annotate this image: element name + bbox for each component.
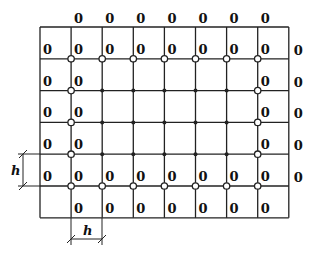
boundary-zero-top: 0 (167, 11, 176, 26)
node-zero-label: 0 (261, 169, 270, 184)
node-zero-label: 0 (167, 169, 176, 184)
boundary-zero-right: 0 (294, 43, 303, 58)
boundary-adjacent-node (255, 151, 261, 157)
interior-node (194, 152, 198, 156)
node-zero-label: 0 (105, 42, 114, 57)
zero-labels: 0000000000000000000000000000000000000000… (43, 11, 303, 216)
boundary-adjacent-node (130, 183, 136, 189)
boundary-adjacent-node (68, 119, 74, 125)
boundary-zero-left: 0 (43, 42, 52, 57)
boundary-adjacent-node (192, 183, 198, 189)
boundary-zero-left: 0 (43, 137, 52, 152)
node-zero-label: 0 (136, 169, 145, 184)
interior-node (162, 152, 166, 156)
boundary-zero-left: 0 (43, 105, 52, 120)
boundary-zero-right: 0 (294, 138, 303, 153)
node-zero-label: 0 (74, 105, 83, 120)
boundary-zero-right: 0 (294, 75, 303, 90)
boundary-adjacent-node (68, 151, 74, 157)
interior-node (100, 152, 104, 156)
interior-node (131, 120, 135, 124)
interior-node (100, 89, 104, 93)
boundary-zero-bottom: 0 (136, 201, 145, 216)
node-zero-label: 0 (261, 74, 270, 89)
boundary-adjacent-node (99, 56, 105, 62)
boundary-adjacent-node (130, 56, 136, 62)
boundary-adjacent-node (255, 183, 261, 189)
boundary-zero-bottom: 0 (167, 201, 176, 216)
boundary-adjacent-node (255, 87, 261, 93)
interior-node (162, 120, 166, 124)
interior-node (131, 152, 135, 156)
node-zero-label: 0 (261, 105, 270, 120)
boundary-zero-right: 0 (294, 170, 303, 185)
boundary-zero-top: 0 (230, 11, 239, 26)
interior-node (131, 89, 135, 93)
boundary-adjacent-node (99, 183, 105, 189)
node-zero-label: 0 (74, 74, 83, 89)
boundary-zero-left: 0 (43, 169, 52, 184)
dimension-markers: h h (11, 150, 106, 245)
boundary-adjacent-node (223, 56, 229, 62)
boundary-adjacent-node (223, 183, 229, 189)
boundary-zero-top: 0 (74, 11, 83, 26)
boundary-adjacent-node (161, 56, 167, 62)
boundary-zero-bottom: 0 (261, 201, 270, 216)
boundary-zero-top: 0 (136, 11, 145, 26)
node-zero-label: 0 (261, 137, 270, 152)
boundary-zero-bottom: 0 (105, 201, 114, 216)
interior-node (162, 89, 166, 93)
node-zero-label: 0 (230, 42, 239, 57)
boundary-adjacent-node (68, 56, 74, 62)
node-zero-label: 0 (230, 169, 239, 184)
boundary-zero-top: 0 (261, 11, 270, 26)
dim-horizontal-label: h (83, 223, 92, 238)
interior-node (225, 152, 229, 156)
node-zero-label: 0 (105, 169, 114, 184)
boundary-adjacent-node (68, 87, 74, 93)
boundary-adjacent-node (161, 183, 167, 189)
interior-node (100, 120, 104, 124)
node-zero-label: 0 (74, 169, 83, 184)
interior-node (194, 89, 198, 93)
node-zero-label: 0 (74, 42, 83, 57)
boundary-zero-bottom: 0 (74, 201, 83, 216)
interior-node (194, 120, 198, 124)
boundary-adjacent-node (68, 183, 74, 189)
boundary-adjacent-node (192, 56, 198, 62)
node-zero-label: 0 (199, 169, 208, 184)
boundary-adjacent-node (255, 56, 261, 62)
boundary-zero-top: 0 (199, 11, 208, 26)
dim-vertical-label: h (11, 163, 20, 178)
boundary-zero-bottom: 0 (230, 201, 239, 216)
boundary-zero-top: 0 (105, 11, 114, 26)
node-zero-label: 0 (74, 137, 83, 152)
boundary-zero-bottom: 0 (199, 201, 208, 216)
node-zero-label: 0 (167, 42, 176, 57)
boundary-adjacent-node (255, 119, 261, 125)
node-zero-label: 0 (199, 42, 208, 57)
boundary-zero-right: 0 (294, 106, 303, 121)
interior-node (225, 120, 229, 124)
grid-diagram: 0000000000000000000000000000000000000000… (0, 0, 312, 258)
boundary-zero-left: 0 (43, 74, 52, 89)
interior-node (225, 89, 229, 93)
node-zero-label: 0 (261, 42, 270, 57)
node-zero-label: 0 (136, 42, 145, 57)
